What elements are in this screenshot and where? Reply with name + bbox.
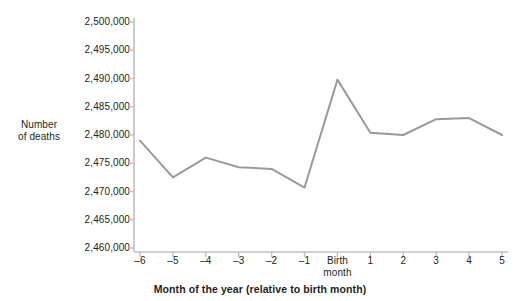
chart-figure: Number of deaths 2,500,0002,495,0002,490… bbox=[0, 0, 520, 301]
x-axis-tick-labels: –6–5–4–3–2–1Birth month12345 bbox=[0, 0, 520, 301]
x-axis-tick-label: 5 bbox=[472, 255, 520, 267]
x-axis-title: Month of the year (relative to birth mon… bbox=[0, 283, 520, 295]
